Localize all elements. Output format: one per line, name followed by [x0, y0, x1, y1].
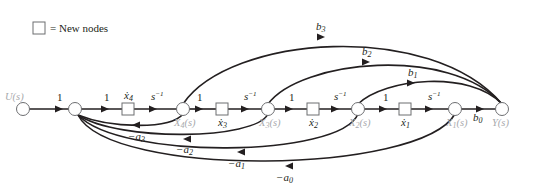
signal-flow-graph: = New nodes b3 b2 b1 −a3 −a2 −a1 −a0 1 [0, 0, 538, 188]
label-a1: −a1 [228, 157, 245, 171]
node-X4 [177, 103, 190, 116]
arrow-icon [195, 106, 203, 113]
label-X4: X4(s) [173, 117, 196, 130]
arrow-icon [183, 136, 191, 143]
arrow-icon [101, 106, 109, 113]
gain-X3-x2dot: 1 [289, 91, 295, 103]
legend-text: = New nodes [50, 22, 108, 34]
label-b3: b3 [316, 20, 326, 34]
arrow-icon [55, 106, 63, 113]
node-x2dot [307, 103, 319, 115]
node-x1dot [399, 103, 411, 115]
label-a2: −a2 [176, 143, 193, 157]
arrow-icon [241, 106, 249, 113]
label-x1dot: ẋ1 [400, 116, 410, 130]
legend: = New nodes [33, 22, 108, 34]
arrow-icon [331, 106, 339, 113]
gain-x4dot-X4: s−1 [151, 90, 164, 102]
label-x4dot: ẋ4 [123, 89, 133, 103]
gain-sum-x4dot: 1 [104, 91, 110, 103]
arrow-icon [149, 106, 157, 113]
gain-x3dot-X3: s−1 [244, 90, 257, 102]
gain-b0: b0 [473, 111, 483, 125]
node-sum [69, 103, 82, 116]
node-X2 [352, 103, 365, 116]
arrow-icon [285, 163, 293, 170]
arrow-icon [285, 106, 293, 113]
label-X1: X1(s) [445, 117, 468, 130]
node-U [17, 103, 30, 116]
label-Y: Y(s) [492, 117, 509, 129]
label-a0: −a0 [276, 171, 293, 185]
node-Y [496, 103, 509, 116]
arrow-icon [317, 34, 325, 41]
node-X3 [262, 103, 275, 116]
label-U: U(s) [5, 91, 24, 103]
gain-x2dot-X2: s−1 [334, 90, 347, 102]
arrow-icon [425, 106, 433, 113]
label-X2: X2(s) [348, 117, 371, 130]
arrow-icon [407, 80, 415, 87]
gain-u-sum: 1 [57, 91, 63, 103]
arrow-icon [362, 59, 370, 66]
label-b1: b1 [408, 66, 418, 80]
node-x3dot [216, 103, 228, 115]
arrow-icon [379, 106, 387, 113]
arrow-icon [132, 122, 140, 129]
gain-X4-x3dot: 1 [197, 91, 203, 103]
label-x3dot: ẋ3 [217, 116, 227, 130]
node-X1 [449, 103, 462, 116]
gain-X2-x1dot: 1 [383, 91, 389, 103]
label-X3: X3(s) [258, 117, 281, 130]
edge-a3 [78, 114, 183, 125]
legend-square-icon [33, 22, 45, 34]
arrow-icon [237, 149, 245, 156]
node-x4dot [122, 103, 134, 115]
label-x2dot: ẋ2 [308, 116, 318, 130]
gain-x1dot-X1: s−1 [428, 90, 441, 102]
